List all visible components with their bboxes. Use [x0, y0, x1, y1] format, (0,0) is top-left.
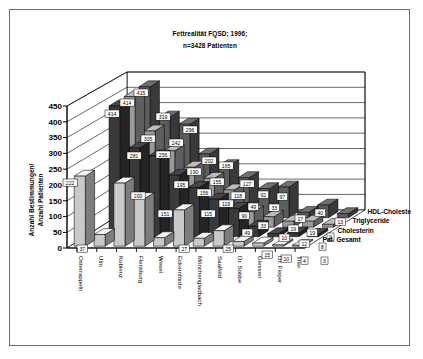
bar-value-label: 49	[242, 229, 253, 236]
bar-value-label: 156	[197, 189, 211, 196]
bar-value-label: 319	[156, 113, 170, 120]
svg-text:19: 19	[309, 230, 315, 236]
svg-text:202: 202	[205, 158, 214, 164]
legend-label-pat-gesamt[interactable]: Pat. Gesamt	[323, 236, 362, 243]
y-tick-0: 450	[48, 102, 62, 111]
legend-label-cholesterin[interactable]: Cholesterin	[338, 227, 374, 234]
bar-value-label: 414	[105, 110, 119, 117]
svg-text:415: 415	[137, 90, 146, 96]
y-tick-5: 200	[48, 181, 62, 190]
svg-text:127: 127	[243, 181, 252, 187]
svg-text:165: 165	[222, 163, 231, 169]
svg-text:13: 13	[337, 219, 343, 225]
svg-text:119: 119	[222, 201, 230, 207]
svg-text:12: 12	[301, 241, 307, 247]
category-label-saalfeld: Saalfeld	[217, 256, 224, 278]
bar[interactable]	[173, 204, 193, 246]
y-tick-2: 350	[48, 133, 62, 142]
svg-text:115: 115	[204, 211, 212, 217]
category-label-ulm: Ulm	[98, 256, 105, 267]
bar-value-label: 17	[295, 215, 306, 222]
legend-label-hdl-cholesterin[interactable]: HDL-Cholesterin	[368, 208, 412, 215]
legend-label-triglyceride[interactable]: Triglyceride	[353, 217, 390, 225]
bar-value-label: 414	[120, 99, 134, 106]
bar-value-label: 305	[141, 135, 155, 142]
y-tick-9: 0	[57, 244, 62, 253]
category-label-osterrappeln: Osterrappeln	[78, 256, 85, 291]
bar[interactable]	[114, 177, 134, 246]
y-tick-7: 100	[48, 212, 62, 221]
bar-value-label: 90	[239, 212, 250, 219]
bar-value-label: 155	[210, 178, 224, 185]
svg-text:33: 33	[260, 223, 266, 229]
svg-text:151: 151	[161, 211, 170, 217]
bar-value-label: 151	[158, 210, 172, 217]
svg-text:97: 97	[279, 194, 285, 200]
svg-text:25: 25	[225, 246, 231, 252]
bar-value-label: 119	[219, 200, 233, 207]
svg-text:49: 49	[244, 230, 250, 236]
svg-text:92: 92	[260, 192, 266, 198]
y-tick-8: 50	[53, 228, 63, 237]
category-label-flensburg: Flensburg	[138, 256, 145, 283]
svg-text:222: 222	[66, 180, 75, 186]
y-tick-group: 450 400 350 300 250 200 150 100 50 0	[48, 102, 67, 253]
bar-value-label: 27	[179, 245, 190, 252]
bar-chart-3d: Fettrealität FQSD; 1996; n=3428 Patiente…	[10, 10, 411, 347]
bar-value-label: 19	[307, 229, 318, 236]
bar-value-label: 40	[315, 209, 326, 216]
bar-value-label: 195	[174, 181, 188, 188]
svg-text:19: 19	[290, 226, 296, 232]
category-label-dr-pieper: Dr. Pieper	[277, 256, 284, 283]
bar-value-label: 190	[187, 168, 201, 175]
svg-text:15: 15	[264, 252, 270, 258]
svg-text:10: 10	[281, 235, 287, 241]
chart-title: Fettrealität FQSD; 1996;	[173, 30, 248, 38]
bar-value-label: 222	[63, 179, 77, 186]
bar-value-label: 19	[288, 225, 299, 232]
bar-value-label: 33	[269, 204, 280, 211]
bar-value-label: 92	[258, 191, 269, 198]
y-axis-title-line2: Anzahl Patienten	[37, 173, 44, 226]
chart-frame: Fettrealität FQSD; 1996; n=3428 Patiente…	[9, 9, 410, 346]
category-label-trier: Trier	[296, 256, 303, 268]
category-label-wesel: Wesel	[158, 256, 165, 273]
bar-value-label: 281	[127, 152, 141, 159]
bar-value-label: 12	[299, 240, 310, 247]
bar-value-label: 8	[319, 243, 326, 250]
svg-text:296: 296	[186, 127, 195, 133]
bar-value-label: 296	[183, 126, 197, 133]
category-label-m-nchengladbach: Mönchengladbach	[197, 256, 204, 306]
svg-text:305: 305	[144, 136, 153, 142]
svg-text:319: 319	[159, 114, 168, 120]
category-label-eckernf-rde: Eckernförde	[177, 256, 184, 289]
bar-value-label: 118	[231, 192, 245, 199]
bar-value-label: 415	[134, 89, 148, 96]
bar-value-label: 256	[156, 151, 170, 158]
bar-value-label: 37	[77, 245, 88, 252]
svg-text:33: 33	[271, 205, 277, 211]
y-tick-4: 250	[48, 165, 62, 174]
bar[interactable]	[134, 193, 154, 247]
svg-text:281: 281	[130, 153, 139, 159]
svg-text:40: 40	[317, 210, 323, 216]
svg-text:49: 49	[250, 204, 256, 210]
bar-value-label: 25	[223, 245, 234, 252]
bar-value-label: 10	[279, 234, 290, 241]
chart-svg: Fettrealität FQSD; 1996; n=3428 Patiente…	[10, 10, 411, 347]
y-tick-3: 300	[48, 149, 62, 158]
bar-value-label: 97	[277, 193, 288, 200]
y-tick-6: 150	[48, 197, 62, 206]
bar-value-label: 33	[258, 222, 269, 229]
bar-value-label: 202	[202, 157, 216, 164]
svg-text:190: 190	[190, 169, 199, 175]
bar-value-label: 115	[201, 210, 215, 217]
svg-text:414: 414	[123, 100, 132, 106]
category-label-dr-sobbe: Dr. Sobbe	[237, 256, 244, 284]
bar-value-label: 165	[219, 162, 233, 169]
svg-text:200: 200	[134, 193, 143, 199]
bar-value-label: 200	[131, 192, 145, 199]
svg-text:195: 195	[177, 182, 186, 188]
bar-value-label: 13	[335, 218, 346, 225]
svg-text:90: 90	[241, 213, 247, 219]
